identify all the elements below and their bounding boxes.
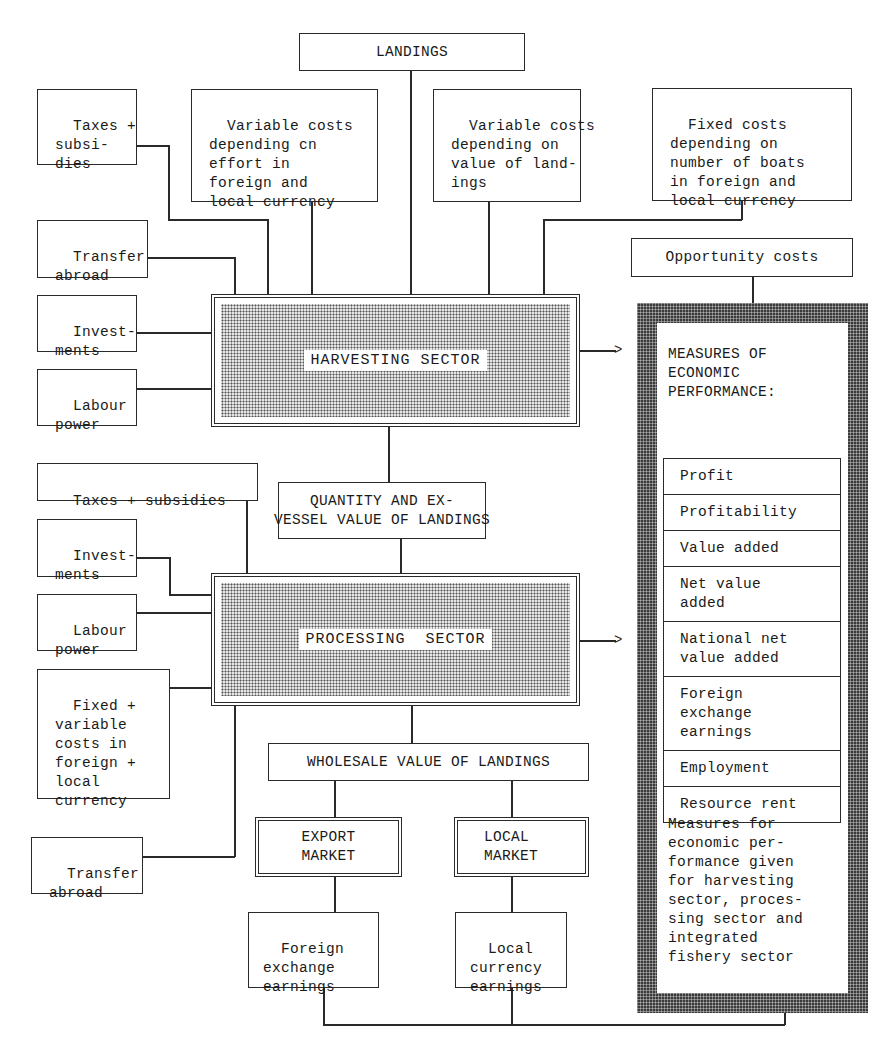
harvesting-sector-box: HARVESTING SECTOR xyxy=(211,294,580,427)
connector xyxy=(784,1012,786,1025)
labour-power-label: Labour power xyxy=(55,398,127,433)
export-market-box: EXPORT MARKET xyxy=(255,817,402,877)
labour-power-processing-box: Labour power xyxy=(37,594,137,651)
connector xyxy=(511,875,513,913)
taxes-subsidies-label: Taxes + subsidies xyxy=(73,493,226,509)
variable-costs-effort-box: Variable costs depending cn effort in fo… xyxy=(191,89,378,202)
measures-title: MEASURES OF ECONOMIC PERFORMANCE: xyxy=(668,345,776,402)
connector xyxy=(311,201,313,295)
connector xyxy=(580,640,616,642)
landings-label: LANDINGS xyxy=(376,43,448,62)
measure-item-foreign-exchange-earnings: Foreign exchange earnings xyxy=(664,677,840,751)
connector xyxy=(543,219,742,221)
measures-note: Measures for economic per- formance give… xyxy=(668,815,803,967)
transfer-abroad-harvesting-box: Transfer abroad xyxy=(37,220,148,278)
opportunity-costs-box: Opportunity costs xyxy=(631,238,853,277)
connector xyxy=(234,257,236,295)
connector xyxy=(410,70,412,295)
connector xyxy=(388,426,390,483)
quantity-value-label: QUANTITY AND EX- VESSEL VALUE OF LANDING… xyxy=(274,492,490,530)
connector xyxy=(168,219,268,221)
measure-item-employment: Employment xyxy=(664,751,840,787)
taxes-subsidies-harvesting-box: Taxes + subsi- dies xyxy=(37,89,137,165)
connector xyxy=(147,257,235,259)
connector xyxy=(411,705,413,743)
quantity-value-box: QUANTITY AND EX- VESSEL VALUE OF LANDING… xyxy=(278,482,486,539)
connector xyxy=(752,276,754,306)
fixed-costs-boats-label: Fixed costs depending on number of boats… xyxy=(670,117,805,209)
export-market-label: EXPORT MARKET xyxy=(301,828,355,866)
taxes-subsidies-label: Taxes + subsi- dies xyxy=(55,118,136,172)
measures-list: Profit Profitability Value added Net val… xyxy=(663,458,841,823)
stipple-fill: HARVESTING SECTOR xyxy=(221,304,570,417)
arrow-right-icon: > xyxy=(614,343,622,357)
measure-item-profitability: Profitability xyxy=(664,495,840,531)
transfer-abroad-label: Transfer abroad xyxy=(49,866,139,901)
foreign-exchange-earnings-label: Foreign exchange earnings xyxy=(263,941,344,995)
connector xyxy=(136,557,170,559)
labour-power-harvesting-box: Labour power xyxy=(37,369,137,426)
stipple-fill: PROCESSING SECTOR xyxy=(221,583,570,696)
taxes-subsidies-processing-box: Taxes + subsidies xyxy=(37,463,258,501)
local-currency-earnings-label: Local currency earnings xyxy=(470,941,542,995)
fixed-costs-boats-box: Fixed costs depending on number of boats… xyxy=(652,88,852,201)
connector xyxy=(142,856,235,858)
connector xyxy=(246,500,248,573)
connector xyxy=(136,388,212,390)
investments-processing-box: Invest- ments xyxy=(37,519,137,577)
wholesale-value-label: WHOLESALE VALUE OF LANDINGS xyxy=(307,753,550,772)
opportunity-costs-label: Opportunity costs xyxy=(665,248,818,267)
investments-label: Invest- ments xyxy=(55,548,136,583)
transfer-abroad-label: Transfer abroad xyxy=(55,249,145,284)
landings-box: LANDINGS xyxy=(299,33,525,71)
connector xyxy=(136,145,169,147)
connector xyxy=(580,350,616,352)
variable-costs-value-box: Variable costs depending on value of lan… xyxy=(433,89,581,202)
connector xyxy=(323,1024,785,1026)
connector xyxy=(168,145,170,220)
measures-panel: MEASURES OF ECONOMIC PERFORMANCE: Profit… xyxy=(637,303,868,1013)
connector xyxy=(400,538,402,573)
variable-costs-effort-label: Variable costs depending cn effort in fo… xyxy=(209,118,353,210)
fixed-variable-costs-label: Fixed + variable costs in foreign + loca… xyxy=(55,698,136,809)
processing-sector-label: PROCESSING SECTOR xyxy=(299,629,491,650)
connector xyxy=(169,687,212,689)
investments-harvesting-box: Invest- ments xyxy=(37,295,137,352)
wholesale-value-box: WHOLESALE VALUE OF LANDINGS xyxy=(268,743,589,781)
measure-item-net-value-added: Net value added xyxy=(664,567,840,622)
connector xyxy=(334,780,336,818)
connector xyxy=(136,332,212,334)
fixed-variable-costs-box: Fixed + variable costs in foreign + loca… xyxy=(37,669,170,799)
labour-power-label: Labour power xyxy=(55,623,127,658)
connector xyxy=(136,612,212,614)
local-market-box: LOCAL MARKET xyxy=(454,817,589,877)
connector xyxy=(543,219,545,295)
connector xyxy=(169,594,212,596)
investments-label: Invest- ments xyxy=(55,324,136,359)
connector xyxy=(267,219,269,295)
transfer-abroad-processing-box: Transfer abroad xyxy=(31,837,143,894)
measures-panel-inner: MEASURES OF ECONOMIC PERFORMANCE: Profit… xyxy=(657,323,848,993)
measure-item-national-net-value-added: National net value added xyxy=(664,622,840,677)
local-market-label: LOCAL MARKET xyxy=(484,828,538,866)
connector xyxy=(334,875,336,913)
processing-sector-box: PROCESSING SECTOR xyxy=(211,573,580,706)
arrow-right-icon: > xyxy=(614,633,622,647)
connector xyxy=(169,557,171,595)
measure-item-profit: Profit xyxy=(664,459,840,495)
connector xyxy=(511,780,513,818)
variable-costs-value-label: Variable costs depending on value of lan… xyxy=(451,118,595,191)
foreign-exchange-earnings-box: Foreign exchange earnings xyxy=(248,912,379,988)
harvesting-sector-label: HARVESTING SECTOR xyxy=(304,350,486,371)
measure-item-value-added: Value added xyxy=(664,531,840,567)
connector xyxy=(234,705,236,857)
local-currency-earnings-box: Local currency earnings xyxy=(455,912,567,988)
connector xyxy=(488,201,490,295)
